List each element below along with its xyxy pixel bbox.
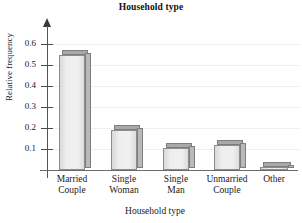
x-axis-tick-label-line: Couple	[195, 185, 259, 196]
bar-front-face	[163, 148, 189, 170]
y-axis-tick-label: 0.3	[6, 101, 36, 111]
bar	[111, 125, 143, 170]
y-axis-tick	[41, 44, 53, 45]
y-axis-tick	[41, 65, 53, 66]
y-axis-tick-label: 0.5	[6, 59, 36, 69]
bar-chart: Household type Relative frequency 0.10.2…	[0, 0, 302, 223]
x-axis-label: Household type	[45, 206, 265, 216]
bar	[59, 50, 91, 171]
y-axis-tick-label: 0.1	[6, 143, 36, 153]
x-axis-line	[40, 170, 298, 171]
bar-side-face	[240, 143, 246, 168]
x-axis-tick-label-line: Other	[242, 174, 302, 185]
bar-front-face	[59, 55, 85, 171]
y-axis-tick	[41, 128, 53, 129]
gridline	[48, 44, 300, 45]
bar-front-face	[260, 167, 288, 170]
chart-title: Household type	[0, 2, 302, 12]
bar	[214, 140, 246, 170]
x-axis-tick-label: Other	[242, 174, 302, 185]
bar-side-face	[85, 53, 91, 169]
y-axis-tick-label: 0.4	[6, 80, 36, 90]
bar	[260, 162, 294, 170]
y-axis-tick-label: 0.2	[6, 122, 36, 132]
bar-front-face	[214, 145, 240, 170]
bar-side-face	[288, 165, 294, 168]
y-axis-tick	[41, 107, 53, 108]
y-axis-tick	[41, 149, 53, 150]
bar-side-face	[137, 128, 143, 168]
y-axis-tick-label: 0.6	[6, 38, 36, 48]
y-axis-tick	[41, 86, 53, 87]
bar	[163, 143, 195, 170]
y-axis-line	[47, 26, 48, 178]
bar-front-face	[111, 130, 137, 170]
bar-side-face	[189, 146, 195, 168]
